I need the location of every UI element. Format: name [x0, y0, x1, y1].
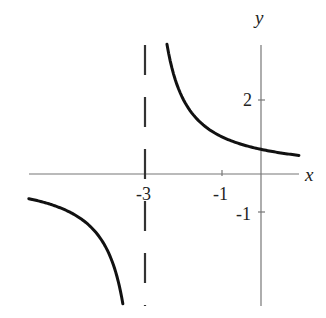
y-axis-label: y [253, 7, 264, 28]
x-axis-label: x [304, 164, 314, 185]
hyperbola-chart: x y -3 -1 2 -1 [0, 0, 326, 318]
x-tick-label-neg1: -1 [213, 184, 228, 204]
curve-right-branch [167, 44, 299, 155]
y-tick-label-neg1: -1 [236, 204, 251, 224]
curve-left-branch [29, 199, 123, 304]
x-tick-label-neg3: -3 [136, 184, 151, 204]
y-tick-label-2: 2 [243, 90, 252, 110]
